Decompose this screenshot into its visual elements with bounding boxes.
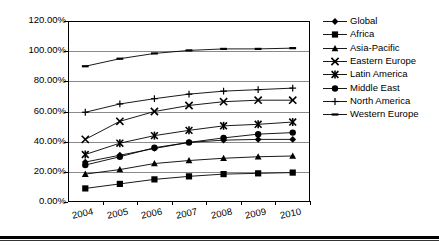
data-point-square — [290, 169, 296, 175]
legend-marker-square-icon — [322, 27, 348, 40]
data-point-circle — [290, 129, 296, 135]
x-tick-mark — [103, 201, 104, 205]
legend-marker-diamond-icon — [322, 14, 348, 27]
data-point-star — [82, 150, 89, 158]
data-point-circle — [220, 135, 226, 141]
legend-label: Middle East — [348, 82, 400, 93]
legend-item-africa[interactable]: Africa — [322, 27, 434, 40]
data-point-circle — [186, 139, 192, 145]
data-point-dash — [186, 49, 193, 51]
x-tick-mark — [137, 201, 138, 205]
series-africa — [82, 169, 296, 191]
chart-legend: GlobalAfricaAsia-PacificEastern EuropeLa… — [322, 14, 434, 120]
x-tick-mark — [310, 201, 311, 205]
legend-marker-x-icon — [322, 54, 348, 67]
data-point-square — [255, 170, 261, 176]
data-point-plus — [332, 98, 339, 105]
bottom-divider — [0, 236, 439, 239]
chart-page: 0.00%20.00%40.00%60.00%80.00%100.00%120.… — [0, 0, 439, 248]
data-point-square — [151, 176, 157, 182]
legend-label: Eastern Europe — [348, 55, 416, 66]
legend-marker-star-icon — [322, 67, 348, 80]
legend-marker-triangle-icon — [322, 41, 348, 54]
legend-item-north-america[interactable]: North America — [322, 94, 434, 107]
data-point-diamond — [289, 136, 296, 143]
data-point-plus — [220, 88, 227, 95]
series-western-europe — [82, 47, 296, 67]
legend-label: Asia-Pacific — [348, 42, 400, 53]
data-point-dash — [116, 58, 123, 60]
data-point-diamond — [332, 18, 339, 25]
data-point-plus — [116, 101, 123, 108]
data-point-square — [186, 173, 192, 179]
data-point-dash — [332, 114, 339, 116]
legend-item-asia-pacific[interactable]: Asia-Pacific — [322, 41, 434, 54]
data-point-triangle — [289, 152, 296, 158]
legend-label: North America — [348, 95, 410, 106]
data-point-dash — [255, 48, 262, 50]
data-point-circle — [255, 131, 261, 137]
data-point-x — [116, 118, 123, 125]
x-tick-mark — [172, 201, 173, 205]
data-point-plus — [255, 86, 262, 93]
data-point-dash — [220, 48, 227, 50]
data-point-plus — [186, 91, 193, 98]
series-eastern-europe — [82, 97, 297, 143]
x-tick-mark — [241, 201, 242, 205]
data-point-circle — [117, 154, 123, 160]
data-point-square — [82, 185, 88, 191]
legend-label: Latin America — [348, 68, 408, 79]
x-tick-mark — [275, 201, 276, 205]
data-point-circle — [332, 85, 338, 91]
data-point-dash — [289, 47, 296, 49]
legend-marker-circle-icon — [322, 81, 348, 94]
data-point-plus — [151, 95, 158, 102]
bottom-divider-thin — [0, 240, 439, 241]
legend-item-eastern-europe[interactable]: Eastern Europe — [322, 54, 434, 67]
legend-item-western-europe[interactable]: Western Europe — [322, 107, 434, 120]
data-point-plus — [289, 85, 296, 92]
legend-item-latin-america[interactable]: Latin America — [322, 67, 434, 80]
legend-item-global[interactable]: Global — [322, 14, 434, 27]
data-point-circle — [82, 162, 88, 168]
data-point-x — [82, 136, 89, 143]
data-point-dash — [151, 52, 158, 54]
data-point-plus — [82, 109, 89, 116]
legend-label: Africa — [348, 28, 374, 39]
legend-marker-dash-icon — [322, 107, 348, 120]
legend-item-middle-east[interactable]: Middle East — [322, 80, 434, 93]
data-point-circle — [151, 145, 157, 151]
x-tick-mark — [206, 201, 207, 205]
data-point-star — [116, 139, 123, 147]
legend-label: Western Europe — [348, 108, 418, 119]
legend-label: Global — [348, 15, 377, 26]
data-point-dash — [82, 65, 89, 67]
data-point-square — [117, 181, 123, 187]
data-point-square — [332, 32, 338, 38]
legend-marker-plus-icon — [322, 94, 348, 107]
data-point-square — [220, 171, 226, 177]
